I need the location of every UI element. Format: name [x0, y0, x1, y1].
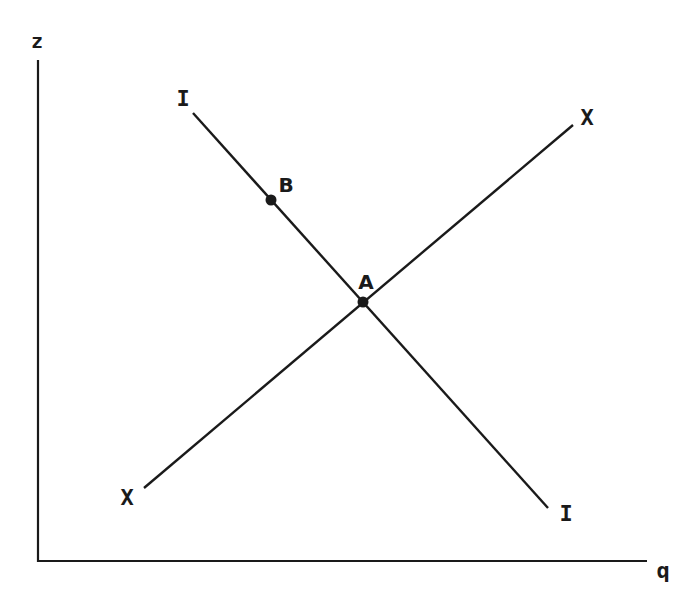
point-A	[358, 297, 369, 308]
point-A-label: A	[358, 270, 374, 294]
curve-I	[193, 113, 548, 508]
point-B	[266, 195, 277, 206]
curve-X	[144, 125, 573, 488]
economic-diagram: z q I I X X A B	[0, 0, 700, 606]
curve-X-label-bottom: X	[120, 485, 133, 510]
point-B-label: B	[278, 173, 293, 197]
curve-I-label-bottom: I	[559, 501, 572, 526]
x-axis-label: q	[656, 558, 669, 583]
y-axis-label: z	[31, 29, 43, 53]
curve-I-label-top: I	[176, 86, 189, 111]
curve-X-label-top: X	[580, 105, 593, 130]
